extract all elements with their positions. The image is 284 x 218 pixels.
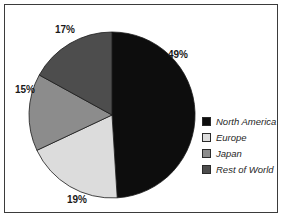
legend-item-europe: Europe	[202, 129, 284, 145]
legend-item-north-america: North America	[202, 113, 284, 129]
legend-item-rest-of-world: Rest of World	[202, 161, 284, 177]
legend-swatch-rest-of-world	[202, 165, 211, 174]
pie-chart-area	[9, 9, 205, 218]
legend-swatch-japan	[202, 149, 211, 158]
pie-label-japan: 15%	[15, 84, 35, 95]
pie-label-north-america: 49%	[168, 49, 188, 60]
pie-chart-svg	[9, 9, 205, 218]
pie-label-rest-of-world: 17%	[55, 24, 75, 35]
pie-label-europe: 19%	[67, 194, 87, 205]
legend-label-europe: Europe	[216, 132, 247, 143]
legend-label-north-america: North America	[216, 116, 276, 127]
chart-legend: North America Europe Japan Rest of World	[202, 113, 284, 177]
figure-frame: 49% 19% 15% 17% North America Europe Jap…	[4, 4, 278, 213]
legend-label-japan: Japan	[216, 148, 242, 159]
legend-label-rest-of-world: Rest of World	[216, 164, 274, 175]
legend-item-japan: Japan	[202, 145, 284, 161]
chart-figure: 49% 19% 15% 17% North America Europe Jap…	[0, 0, 284, 218]
legend-swatch-europe	[202, 133, 211, 142]
legend-swatch-north-america	[202, 117, 211, 126]
